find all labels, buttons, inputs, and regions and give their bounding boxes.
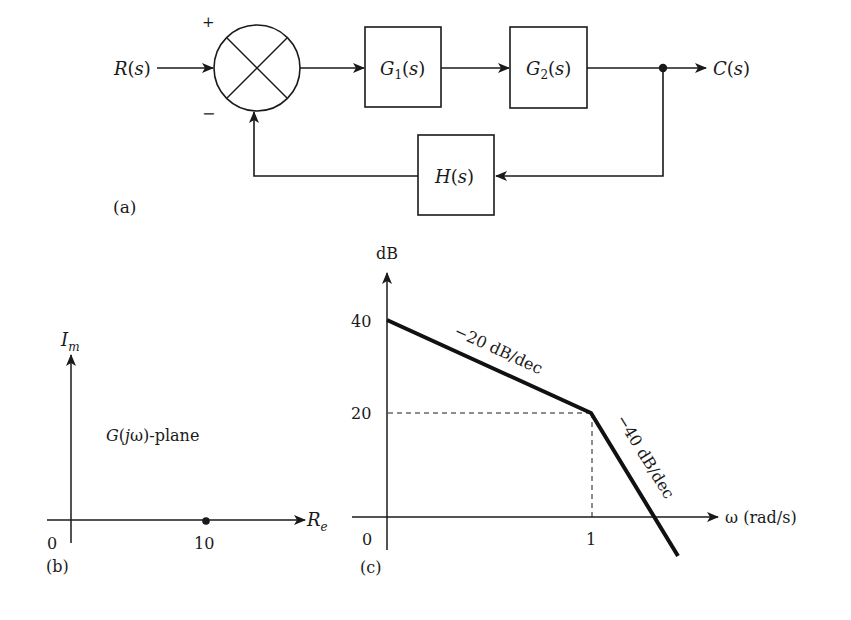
plus-sign: +	[202, 13, 215, 31]
panel-a-caption: (a)	[113, 197, 136, 217]
origin-label: 0	[362, 530, 372, 549]
y-tick-20: 20	[351, 404, 371, 423]
svg-text:G2(s): G2(s)	[526, 58, 571, 82]
block-h: H(s)	[418, 135, 494, 215]
output-label: C(s)	[713, 58, 750, 79]
svg-text:G1(s): G1(s)	[380, 58, 425, 82]
panel-b-caption: (b)	[46, 557, 69, 576]
real-axis-label: Re	[306, 509, 328, 534]
x-axis-label: ω (rad/s)	[725, 508, 797, 527]
plane-label: G(jω)-plane	[106, 426, 199, 445]
imag-axis-label: Im	[60, 329, 80, 354]
panel-c-bode-plot: dB ω (rad/s) 40 20 0 1 (c) −20 dB/dec −4…	[351, 244, 797, 577]
panel-c-caption: (c)	[360, 558, 381, 577]
figure-canvas: R(s) + − G1(s) G2(s) C(s)	[0, 0, 851, 620]
slope-label-40: −40 dB/dec	[613, 411, 679, 502]
panel-b-complex-plane: Im Re G(jω)-plane 0 10 (b)	[46, 329, 328, 576]
panel-a-block-diagram: R(s) + − G1(s) G2(s) C(s)	[113, 13, 750, 217]
svg-text:H(s): H(s)	[434, 166, 474, 187]
block-g1: G1(s)	[365, 27, 441, 107]
block-g2: G2(s)	[510, 27, 587, 108]
feedback-return-arrow	[254, 112, 418, 176]
minus-sign: −	[202, 104, 215, 123]
y-tick-40: 40	[351, 312, 371, 331]
feedback-arrow	[496, 68, 663, 176]
summing-junction	[214, 25, 300, 111]
x-tick-1: 1	[586, 530, 596, 549]
point-value-label: 10	[194, 534, 214, 553]
origin-label: 0	[47, 534, 57, 553]
point-marker	[202, 517, 210, 525]
y-axis-label: dB	[376, 244, 398, 263]
input-label: R(s)	[113, 58, 151, 79]
